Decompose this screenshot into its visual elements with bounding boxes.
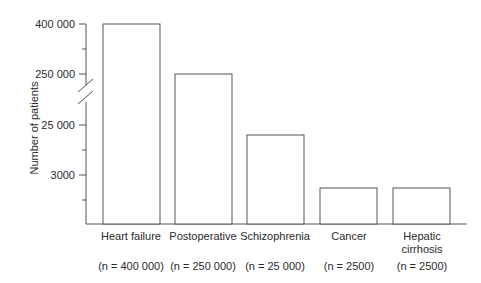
bar-cancer [320,188,377,224]
sample-size-label: (n = 25 000) [245,260,305,272]
bar-chart: Number of patients 400 000 250 000 25 00… [0,0,481,283]
chart-canvas: Number of patients 400 000 250 000 25 00… [0,0,481,283]
y-tick-label: 3000 [51,169,75,181]
bar-hepatic-cirrhosis [393,188,450,224]
sample-size-label: (n = 2500) [397,260,447,272]
x-category-label: Postoperative [169,230,236,242]
bar-postoperative [175,74,232,224]
x-category-label: Hepatic [403,230,441,242]
x-category-label: Cancer [331,230,367,242]
y-tick-label: 400 000 [35,18,75,30]
x-category-label: Schizophrenia [240,230,311,242]
bar-schizophrenia [247,135,304,224]
sample-size-label: (n = 400 000) [98,260,164,272]
sample-size-label: (n = 2500) [324,260,374,272]
sample-size-label: (n = 250 000) [170,260,236,272]
y-axis-label: Number of patients [28,81,40,174]
x-category-label-line2: cirrhosis [402,243,443,255]
y-tick-label: 250 000 [35,68,75,80]
y-axis [78,24,93,224]
bar-heart-failure [103,24,160,224]
y-tick-label: 25 000 [41,119,75,131]
x-category-label: Heart failure [101,230,161,242]
